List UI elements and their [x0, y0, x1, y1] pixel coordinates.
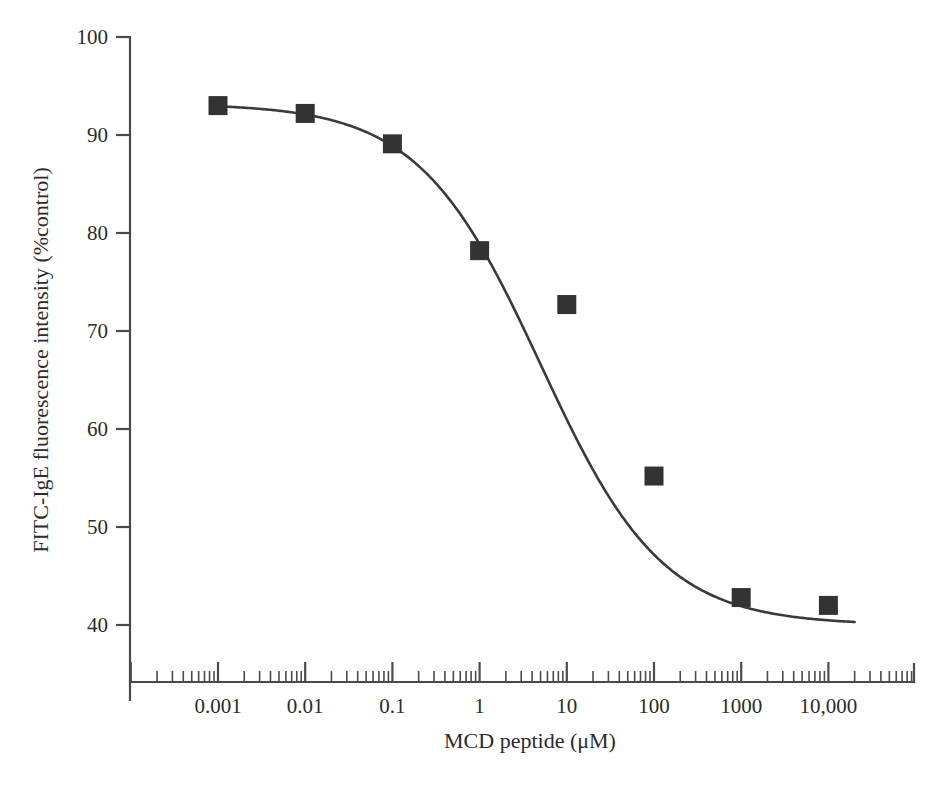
- x-tick-label: 0.1: [379, 694, 405, 718]
- x-axis-title: MCD peptide (μM): [444, 728, 616, 753]
- y-tick-label: 90: [87, 123, 108, 147]
- data-point-marker: [209, 96, 228, 115]
- x-tick-label: 0.01: [287, 694, 324, 718]
- fit-curve: [218, 106, 855, 622]
- y-tick-label: 80: [87, 221, 108, 245]
- y-tick-label: 40: [87, 613, 108, 637]
- sigmoid-fit-path: [218, 106, 855, 622]
- x-tick-label: 10,000: [800, 694, 858, 718]
- dose-response-figure: 405060708090100 0.0010.010.1110100100010…: [0, 0, 944, 786]
- x-tick-label: 1: [474, 694, 485, 718]
- data-point-marker: [296, 104, 315, 123]
- y-axis-title: FITC-IgE fluorescence intensity (%contro…: [28, 167, 53, 552]
- data-point-marker: [383, 134, 402, 153]
- axes: [130, 37, 914, 700]
- x-tick-label: 10: [556, 694, 577, 718]
- data-point-markers: [209, 96, 838, 615]
- data-point-marker: [470, 241, 489, 260]
- chart-canvas: 405060708090100 0.0010.010.1110100100010…: [0, 0, 944, 786]
- x-tick-labels: 0.0010.010.1110100100010,000: [194, 694, 857, 718]
- x-tick-label: 0.001: [194, 694, 241, 718]
- axis-ticks: [116, 37, 912, 682]
- y-tick-label: 100: [77, 25, 109, 49]
- data-point-marker: [557, 295, 576, 314]
- y-tick-label: 50: [87, 515, 108, 539]
- y-tick-label: 70: [87, 319, 108, 343]
- x-tick-label: 1000: [720, 694, 762, 718]
- data-point-marker: [645, 467, 664, 486]
- data-point-marker: [819, 596, 838, 615]
- y-tick-labels: 405060708090100: [77, 25, 109, 637]
- data-point-marker: [732, 588, 751, 607]
- y-tick-label: 60: [87, 417, 108, 441]
- x-tick-label: 100: [638, 694, 670, 718]
